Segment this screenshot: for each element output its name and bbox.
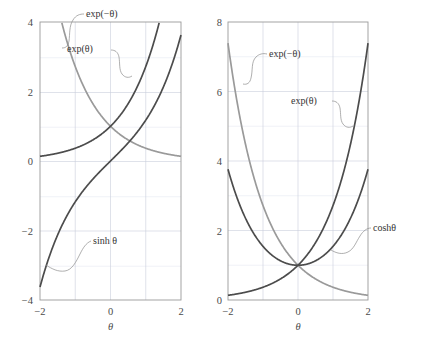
label-exp-theta-left: exp(θ) [67,43,93,55]
right-ytick-4: 4 [217,156,223,167]
left-ytick-4: 4 [28,17,34,28]
leader-exp-theta-left [111,50,132,77]
label-cosh-theta-right: coshθ [373,222,396,233]
left-plot-svg: exp(−θ) exp(θ) sinh θ 4 2 0 −2 −4 −2 0 2… [0,0,205,341]
left-xtick-0: 0 [108,306,113,317]
left-xtick-2: 2 [178,306,183,317]
right-ytick-8: 8 [217,17,222,28]
right-xtick-0: 0 [295,306,300,317]
right-ytick-6: 6 [217,87,222,98]
left-ytick-0: 0 [28,156,33,167]
leader-exp-theta-right [332,101,353,127]
label-sinh-theta-left: sinh θ [93,235,117,246]
curve-exp-theta-left [40,23,159,156]
right-plot-svg: exp(−θ) exp(θ) coshθ 8 6 4 2 0 −2 0 2 θ [205,0,421,341]
chart-panel-right: exp(−θ) exp(θ) coshθ 8 6 4 2 0 −2 0 2 θ [205,0,421,341]
right-ytick-2: 2 [217,226,222,237]
leader-exp-neg-theta-right [243,54,267,85]
left-xaxis-title: θ [108,321,113,332]
right-xtick-neg2: −2 [222,306,233,317]
figure-two-panel-exponential-hyperbolic: exp(−θ) exp(θ) sinh θ 4 2 0 −2 −4 −2 0 2… [0,0,421,341]
left-xtick-neg2: −2 [34,306,45,317]
right-xtick-2: 2 [365,306,370,317]
right-ytick-0: 0 [217,295,222,306]
left-ytick-2: 2 [28,87,33,98]
left-ytick-neg4: −4 [22,295,34,306]
chart-panel-left: exp(−θ) exp(θ) sinh θ 4 2 0 −2 −4 −2 0 2… [0,0,205,341]
right-xaxis-title: θ [295,321,300,332]
label-exp-neg-theta-right: exp(−θ) [269,48,301,60]
label-exp-theta-right: exp(θ) [291,95,317,107]
left-ytick-neg2: −2 [22,226,33,237]
label-exp-neg-theta-left: exp(−θ) [86,8,118,20]
